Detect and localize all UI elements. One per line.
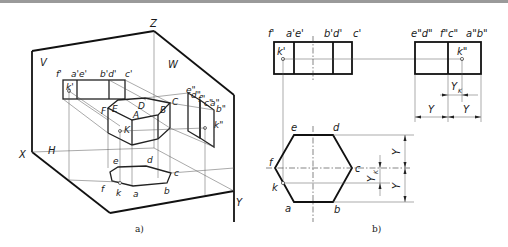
label-a-e-prime: a'e'	[71, 69, 87, 79]
label-fc-dprime: f"c"	[440, 28, 458, 39]
h-plane-left-edge	[32, 152, 110, 213]
label-ed-dprime: e"d"	[411, 28, 433, 39]
label-E: E	[112, 104, 118, 114]
label-c-top: c	[174, 168, 179, 178]
projector-line	[171, 168, 234, 173]
arrow-icon	[442, 116, 448, 119]
top-view-hexagon	[275, 135, 352, 202]
plane-label-w: W	[168, 59, 179, 70]
projector-line	[120, 128, 205, 131]
dim-label-yk-vertical: Y	[366, 175, 377, 182]
arrow-icon	[379, 183, 382, 189]
axis-label-z: Z	[149, 18, 158, 29]
arrow-icon	[404, 135, 407, 141]
label-f-prime: f'	[268, 28, 274, 39]
label-k-prime: k'	[66, 82, 74, 92]
label-b-top: b	[334, 204, 340, 215]
label-d-top: d	[147, 155, 153, 165]
arrow-icon	[415, 116, 421, 119]
dim-label-y-left: Y	[428, 104, 435, 115]
point-k-top	[281, 181, 284, 184]
axis-label-y: Y	[236, 197, 243, 208]
arrow-icon	[448, 116, 454, 119]
plane-label-h: H	[48, 145, 56, 156]
label-d-top: d	[333, 122, 340, 133]
arrow-icon	[462, 94, 468, 97]
arrow-icon	[442, 94, 448, 97]
label-ab-dprime: a"b"	[466, 28, 488, 39]
label-e-top: e	[291, 122, 297, 133]
projector-line	[109, 80, 146, 100]
label-K: K	[124, 125, 131, 135]
label-e-top: e	[113, 156, 119, 166]
label-b-dprime: b"	[216, 104, 226, 114]
label-C: C	[172, 97, 179, 107]
label-f-top: f	[101, 184, 106, 194]
label-f-top: f	[269, 157, 274, 168]
label-b-top: b	[164, 186, 170, 196]
label-F: F	[101, 106, 107, 116]
label-c-prime: c'	[125, 69, 132, 79]
figure-b-orthographic: f' a'e' b'd' c' k' e"d" f"c" a"b" k" Y K…	[266, 28, 488, 234]
arrow-icon	[404, 196, 407, 202]
dim-label-yk: Y	[451, 81, 458, 92]
dim-label-yk-sub-vertical: K	[372, 169, 379, 174]
point-k-top	[119, 182, 122, 185]
caption-a: a)	[135, 224, 144, 234]
label-a-e-prime: a'e'	[286, 28, 304, 39]
label-c-prime: c'	[353, 28, 361, 39]
dim-label-y-right: Y	[463, 104, 470, 115]
projection-diagram: Z V W H X Y f' a'e' b'd' c' k' e" d" f" …	[0, 0, 508, 247]
arrow-icon	[475, 116, 481, 119]
label-k-prime: k'	[277, 46, 286, 57]
arrow-icon	[404, 162, 407, 168]
plane-label-v: V	[40, 57, 48, 68]
label-b-d-prime: b'd'	[100, 69, 116, 79]
label-A: A	[132, 110, 139, 120]
dim-label-y-upper: Y	[391, 148, 402, 155]
label-a-top: a	[285, 203, 291, 214]
label-B: B	[160, 105, 166, 115]
label-c-top: c	[355, 163, 361, 174]
figure-a-isometric: Z V W H X Y f' a'e' b'd' c' k' e" d" f" …	[18, 18, 243, 234]
label-f-prime: f'	[56, 69, 62, 79]
axis-label-x: X	[18, 149, 27, 160]
label-k-dprime: k"	[214, 120, 223, 130]
arrow-icon	[404, 168, 407, 174]
v-plane-top-edge	[32, 31, 154, 51]
projector-line	[170, 128, 214, 147]
label-a-top: a	[133, 189, 139, 199]
label-k-top: k	[116, 188, 122, 198]
label-k-top: k	[272, 182, 279, 193]
arrow-icon	[379, 162, 382, 168]
front-view-rect	[274, 42, 352, 74]
projector-line	[63, 99, 108, 133]
h-plane-front-edge	[110, 191, 234, 213]
caption-b: b)	[372, 224, 381, 234]
label-k-dprime: k"	[457, 46, 467, 57]
label-b-d-prime: b'd'	[324, 28, 342, 39]
y-axis	[154, 148, 234, 191]
dim-label-y-lower: Y	[391, 182, 402, 189]
